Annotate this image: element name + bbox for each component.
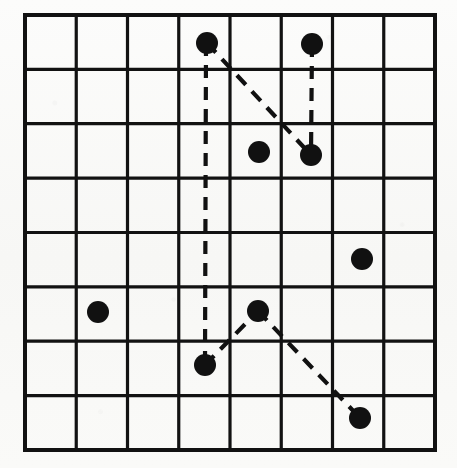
- edge-diagonal-lower-right-edge: [258, 311, 360, 418]
- point-bottom-right-node: [349, 407, 371, 429]
- point-right-node: [351, 248, 373, 270]
- edge-vertical-long-edge: [205, 43, 206, 365]
- point-top-left-node: [196, 32, 218, 54]
- edge-vertical-short-edge: [311, 44, 312, 155]
- point-lower-left-node: [194, 354, 216, 376]
- point-mid-right-node: [300, 144, 322, 166]
- grid-diagram-canvas: [0, 0, 457, 468]
- grid-inner-lines: [25, 15, 435, 450]
- point-left-node: [87, 301, 109, 323]
- point-lower-center-node: [247, 300, 269, 322]
- point-top-right-node: [301, 33, 323, 55]
- figure-root: [0, 0, 457, 468]
- point-mid-center-node: [248, 141, 270, 163]
- edge-diagonal-upper-edge: [207, 43, 311, 155]
